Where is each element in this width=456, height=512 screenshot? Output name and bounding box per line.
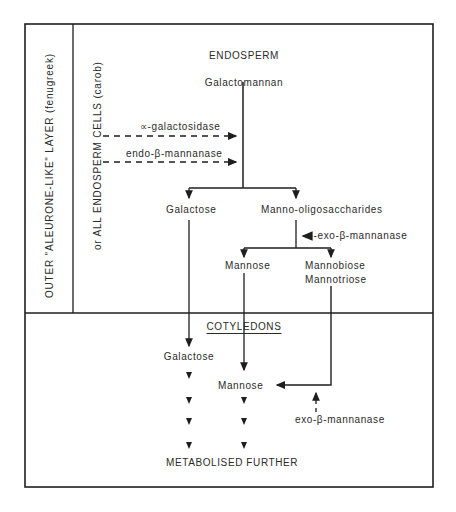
all-cells-label: or ALL ENDOSPERM CELLS (carob) — [92, 61, 103, 250]
galactose-label: Galactose — [166, 204, 216, 215]
mannobiose-label: Mannobiose — [305, 260, 365, 271]
outer-layer-label: OUTER "ALEURONE-LIKE" LAYER (fenugreek) — [44, 53, 55, 298]
metabolised-further-label: METABOLISED FURTHER — [166, 457, 298, 468]
mannose-label: Mannose — [225, 260, 270, 271]
cotyledon-galactose-label: Galactose — [164, 351, 214, 362]
manno-oligosaccharides-label: Manno-oligosaccharides — [261, 204, 383, 215]
cotyledon-mannose-label: Mannose — [218, 380, 263, 391]
endosperm-title: ENDOSPERM — [209, 50, 279, 61]
galactomannan-label: Galactomannan — [205, 77, 283, 88]
endo-mannanase-label: endo-β-mannanase — [126, 148, 223, 159]
mannotriose-label: Mannotriose — [305, 274, 367, 285]
alpha-galactosidase-label: ∝-galactosidase — [140, 121, 220, 132]
exo-mannanase-label: ←-exo-β-mannanase — [303, 230, 407, 241]
cotyledons-title: COTYLEDONS — [207, 321, 282, 332]
cotyledon-exo-mannanase-label: exo-β-mannanase — [295, 414, 385, 425]
